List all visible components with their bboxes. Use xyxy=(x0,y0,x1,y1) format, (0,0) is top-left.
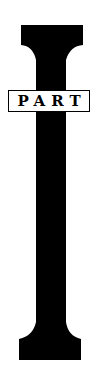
roman-numeral-one-glyph: I xyxy=(0,0,100,378)
part-label: PART xyxy=(11,94,86,109)
part-label-box: PART xyxy=(8,90,90,112)
numeral-shape xyxy=(19,25,83,360)
